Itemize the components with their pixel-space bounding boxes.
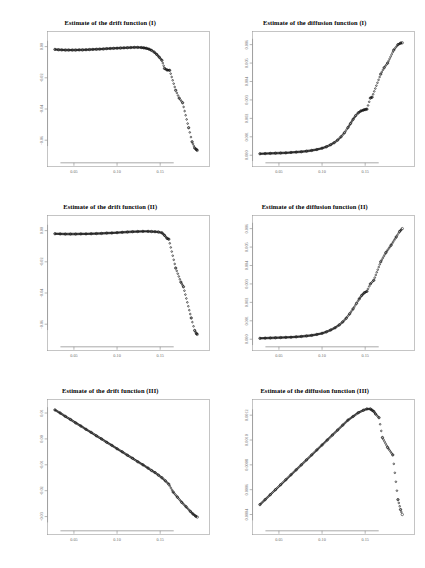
y-tick-label: 0.0006 bbox=[244, 484, 249, 496]
y-tick-label: 0.00 bbox=[39, 227, 44, 234]
x-tick-label: 0.10 bbox=[318, 353, 325, 358]
scatter-points bbox=[54, 409, 199, 519]
panel-diffusion-2: Estimate of the diffusion function (II) … bbox=[213, 194, 418, 378]
x-tick-label: 0.05 bbox=[275, 536, 282, 541]
plot-diffusion-2: 0.050.100.150.0000.0010.0020.0030.0040.0… bbox=[213, 194, 418, 378]
scatter-points bbox=[54, 230, 199, 335]
y-tick-label: 0.003 bbox=[244, 95, 249, 105]
y-tick-label: 0.004 bbox=[244, 260, 249, 270]
y-tick-label: 0.001 bbox=[244, 132, 249, 142]
y-tick-label: 0.004 bbox=[244, 76, 249, 86]
y-tick-label: 0.000 bbox=[244, 334, 249, 344]
x-tick-label: 0.15 bbox=[361, 169, 368, 174]
y-tick-label: 0.0004 bbox=[244, 508, 249, 521]
plot-drift-3: 0.050.100.150.010.00-0.01-0.02-0.03 bbox=[8, 378, 213, 562]
x-tick-label: 0.05 bbox=[70, 169, 77, 174]
scatter-points bbox=[258, 408, 403, 516]
y-tick-label: 0.002 bbox=[244, 114, 249, 124]
x-tick-label: 0.15 bbox=[361, 353, 368, 358]
scatter-points bbox=[258, 42, 403, 155]
x-tick-label: 0.15 bbox=[361, 536, 368, 541]
y-tick-label: 0.005 bbox=[244, 242, 249, 252]
plot-frame bbox=[48, 215, 210, 350]
y-tick-label: 0.00 bbox=[39, 435, 44, 442]
y-tick-label: -0.03 bbox=[39, 512, 44, 521]
y-tick-label: 0.001 bbox=[244, 316, 249, 326]
y-tick-label: 0.0012 bbox=[244, 409, 249, 421]
x-tick-label: 0.15 bbox=[156, 169, 163, 174]
y-tick-label: -0.04 bbox=[39, 288, 44, 298]
x-tick-label: 0.10 bbox=[113, 536, 120, 541]
x-tick-label: 0.05 bbox=[275, 353, 282, 358]
figure-canvas: Estimate of the drift function (I) 0.050… bbox=[0, 0, 425, 568]
plot-drift-2: 0.050.100.150.00-0.02-0.04-0.06 bbox=[8, 194, 213, 378]
x-tick-label: 0.05 bbox=[275, 169, 282, 174]
x-tick-label: 0.05 bbox=[70, 536, 77, 541]
x-tick-label: 0.05 bbox=[70, 353, 77, 358]
y-tick-label: 0.00 bbox=[39, 43, 44, 50]
y-tick-label: -0.01 bbox=[39, 460, 44, 469]
plot-diffusion-1: 0.050.100.150.0000.0010.0020.0030.0040.0… bbox=[213, 10, 418, 194]
y-tick-label: -0.02 bbox=[39, 257, 44, 266]
panel-row-2: Estimate of the drift function (II) 0.05… bbox=[8, 194, 417, 378]
y-tick-label: 0.003 bbox=[244, 279, 249, 289]
y-tick-label: 0.0010 bbox=[244, 434, 249, 446]
y-tick-label: 0.006 bbox=[244, 40, 249, 50]
panel-row-3: Estimate of the drift function (III) 0.0… bbox=[8, 378, 417, 562]
y-tick-label: -0.02 bbox=[39, 73, 44, 82]
plot-frame bbox=[48, 31, 210, 166]
x-tick-label: 0.10 bbox=[113, 169, 120, 174]
panel-diffusion-3: Estimate of the diffusion function (III)… bbox=[213, 378, 418, 562]
panel-row-1: Estimate of the drift function (I) 0.050… bbox=[8, 10, 417, 194]
scatter-points bbox=[258, 227, 403, 339]
y-tick-label: 0.000 bbox=[244, 150, 249, 160]
plot-frame bbox=[252, 215, 414, 350]
panel-drift-3: Estimate of the drift function (III) 0.0… bbox=[8, 378, 213, 562]
plot-frame bbox=[252, 31, 414, 166]
scatter-points bbox=[54, 46, 199, 151]
y-tick-label: 0.002 bbox=[244, 298, 249, 308]
y-tick-label: 0.01 bbox=[39, 409, 44, 416]
plot-diffusion-3: 0.050.100.150.00040.00060.00080.00100.00… bbox=[213, 378, 418, 562]
y-tick-label: 0.005 bbox=[244, 58, 249, 68]
y-tick-label: -0.06 bbox=[39, 136, 44, 145]
panel-diffusion-1: Estimate of the diffusion function (I) 0… bbox=[213, 10, 418, 194]
y-tick-label: 0.006 bbox=[244, 224, 249, 234]
plot-frame bbox=[252, 399, 414, 534]
y-tick-label: -0.04 bbox=[39, 104, 44, 114]
x-tick-label: 0.15 bbox=[156, 353, 163, 358]
x-tick-label: 0.10 bbox=[318, 169, 325, 174]
x-tick-label: 0.10 bbox=[318, 536, 325, 541]
y-tick-label: -0.02 bbox=[39, 486, 44, 495]
y-tick-label: 0.0008 bbox=[244, 459, 249, 471]
panel-drift-1: Estimate of the drift function (I) 0.050… bbox=[8, 10, 213, 194]
plot-drift-1: 0.050.100.150.00-0.02-0.04-0.06 bbox=[8, 10, 213, 194]
x-tick-label: 0.15 bbox=[156, 536, 163, 541]
x-tick-label: 0.10 bbox=[113, 353, 120, 358]
y-tick-label: -0.06 bbox=[39, 320, 44, 329]
panel-drift-2: Estimate of the drift function (II) 0.05… bbox=[8, 194, 213, 378]
